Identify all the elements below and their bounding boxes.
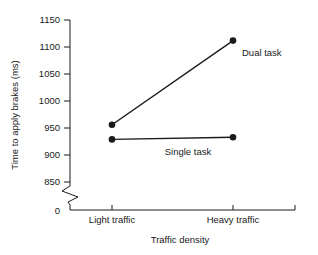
y-tick-label-1150: 1150 — [40, 14, 60, 25]
y-axis-title: Time to apply brakes (ms) — [9, 60, 20, 169]
line-chart: 1150 1100 1050 1000 950 900 850 0 Light … — [0, 0, 318, 255]
y-tick-label-1050: 1050 — [39, 68, 60, 79]
series-single-task-point-light-traffic — [109, 136, 116, 143]
y-axis-origin-label: 0 — [55, 205, 60, 216]
series-dual-task-point-light-traffic — [109, 122, 116, 129]
chart-container: 1150 1100 1050 1000 950 900 850 0 Light … — [0, 0, 318, 255]
series-dual-task-point-heavy-traffic — [230, 37, 237, 44]
x-axis-title: Traffic density — [151, 234, 210, 245]
y-tick-label-950: 950 — [44, 122, 60, 133]
series-label-single-task: Single task — [165, 146, 212, 157]
y-tick-label-1100: 1100 — [40, 41, 60, 52]
series-single-task-point-heavy-traffic — [230, 134, 237, 141]
series-label-dual-task: Dual task — [242, 47, 282, 58]
x-category-label-light-traffic: Light traffic — [89, 214, 136, 225]
y-tick-label-900: 900 — [44, 149, 60, 160]
y-tick-label-850: 850 — [44, 176, 60, 187]
y-tick-label-1000: 1000 — [39, 95, 60, 106]
x-category-label-heavy-traffic: Heavy traffic — [207, 214, 260, 225]
